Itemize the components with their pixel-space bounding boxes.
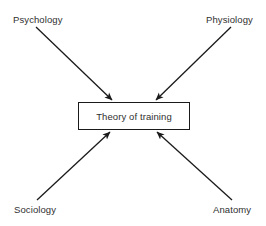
source-label-sociology: Sociology [14, 204, 56, 215]
arrow-psychology-to-center [36, 27, 112, 100]
central-node-box: Theory of training [78, 102, 190, 130]
arrow-physiology-to-center [156, 27, 231, 100]
source-label-physiology: Physiology [206, 14, 253, 25]
central-node-label: Theory of training [96, 111, 172, 122]
source-label-anatomy: Anatomy [213, 204, 251, 215]
arrow-anatomy-to-center [157, 132, 232, 200]
arrow-sociology-to-center [37, 132, 110, 200]
source-label-psychology: Psychology [13, 14, 63, 25]
diagram-canvas: Psychology Physiology Sociology Anatomy … [0, 0, 266, 226]
